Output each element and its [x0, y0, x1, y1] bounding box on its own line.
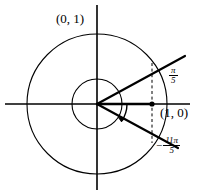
unit-circle-figure: (0, 1) (1, 0) π 5 − 11π 5	[0, 0, 200, 196]
angle-arrowhead-icon	[118, 117, 124, 121]
angle-negative-fraction: 11π 5	[163, 136, 180, 156]
angle-label-negative: − 11π 5	[156, 136, 180, 156]
point-label-one-zero: (1, 0)	[160, 106, 188, 119]
angle-label-positive: π 5	[168, 66, 178, 86]
angle-negative-denominator: 5	[163, 146, 180, 155]
figure-canvas	[0, 0, 200, 196]
point-label-zero-one: (0, 1)	[56, 12, 84, 25]
angle-positive-denominator: 5	[169, 76, 178, 85]
unit-point-dot	[149, 101, 154, 106]
angle-positive-fraction: π 5	[169, 66, 178, 86]
angle-negative-sign: −	[156, 140, 162, 151]
